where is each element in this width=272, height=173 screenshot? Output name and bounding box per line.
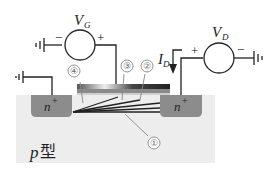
callout-4-label: ④: [70, 66, 78, 76]
callout-2-label: ②: [143, 61, 151, 71]
drain-n-label: n: [174, 99, 181, 114]
vd-plus: +: [191, 43, 198, 58]
substrate-label: p: [29, 143, 39, 162]
mosfet-diagram: ① ② ③ ④ V G V D I D n n p + + − + + − 型: [0, 0, 272, 173]
callout-3-label: ③: [123, 61, 131, 71]
source-n-superscript: +: [52, 95, 58, 106]
vg-subscript: G: [84, 20, 91, 30]
substrate-type-suffix: 型: [40, 142, 56, 161]
vg-minus: −: [55, 30, 62, 45]
id-subscript: D: [162, 59, 170, 69]
gate-oxide-insulator: [77, 93, 170, 95]
vg-plus: +: [97, 30, 104, 45]
source-n-label: n: [44, 99, 51, 114]
vd-minus: −: [237, 42, 244, 57]
drain-n-superscript: +: [182, 95, 188, 106]
drain-n-region: [160, 95, 202, 117]
current-arrow-icon: [169, 64, 177, 74]
callout-1-label: ①: [150, 138, 158, 148]
source-ground: [16, 71, 52, 95]
drain-circuit: [173, 43, 262, 95]
vd-subscript: D: [221, 32, 229, 42]
